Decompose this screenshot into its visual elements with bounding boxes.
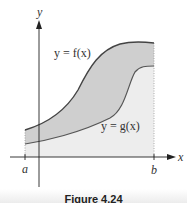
figure-caption: Figure 4.24 <box>0 189 187 203</box>
area-between-curves-diagram: y x a b y = f(x) y = g(x) <box>0 0 187 203</box>
a-label: a <box>22 162 28 176</box>
x-axis-label: x <box>177 150 184 164</box>
y-axis-label: y <box>36 5 43 19</box>
figure-caption-text: Figure 4.24 <box>64 193 122 203</box>
curve-g-label: y = g(x) <box>101 119 140 133</box>
curve-f-label: y = f(x) <box>54 46 91 60</box>
x-axis-arrow-icon <box>167 154 176 160</box>
b-label: b <box>151 163 157 177</box>
y-axis-arrow-icon <box>36 20 42 29</box>
